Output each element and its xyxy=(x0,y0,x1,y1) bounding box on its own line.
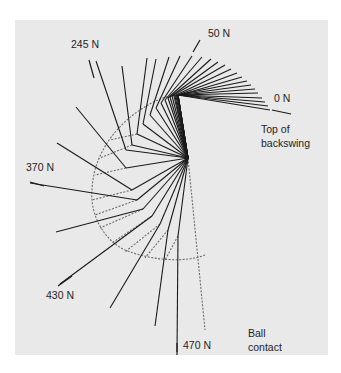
club-line xyxy=(30,183,137,200)
club-line xyxy=(137,58,147,134)
club-line xyxy=(76,107,126,168)
tick-430n xyxy=(58,276,72,286)
force-label-ticks xyxy=(30,40,291,355)
label-370n: 370 N xyxy=(26,161,54,173)
arm-segments xyxy=(126,95,188,236)
label-470n: 470 N xyxy=(183,339,211,351)
label-0n: 0 N xyxy=(274,92,290,104)
dotted-spoke xyxy=(188,158,205,330)
golf-swing-force-diagram xyxy=(0,0,341,373)
tick-245n xyxy=(89,60,94,78)
label-ball-contact-line1: Ball xyxy=(248,327,266,339)
label-ball-contact-line2: contact xyxy=(248,341,282,353)
club-line xyxy=(155,230,168,326)
tick-370n xyxy=(30,182,44,186)
club-segments xyxy=(30,56,270,352)
tick-50n xyxy=(193,40,200,52)
dotted-spoke xyxy=(110,134,137,140)
label-top-of-backswing-line1: Top of xyxy=(261,123,290,135)
arm-line xyxy=(137,158,188,200)
club-line xyxy=(122,66,132,145)
label-430n: 430 N xyxy=(46,289,74,301)
label-50n: 50 N xyxy=(208,27,230,39)
club-line xyxy=(60,216,152,284)
label-245n: 245 N xyxy=(71,38,99,50)
club-line xyxy=(143,59,156,124)
wrist-path-dotted xyxy=(92,95,205,330)
tick-0n xyxy=(272,110,291,114)
club-line xyxy=(56,209,143,232)
dotted-spoke xyxy=(125,224,160,252)
club-line xyxy=(177,236,178,352)
club-line xyxy=(110,224,160,308)
arm-line xyxy=(152,158,188,216)
label-top-of-backswing-line2: backswing xyxy=(261,137,310,149)
wrist-path-curve xyxy=(92,95,205,260)
dotted-spoke xyxy=(95,168,126,175)
